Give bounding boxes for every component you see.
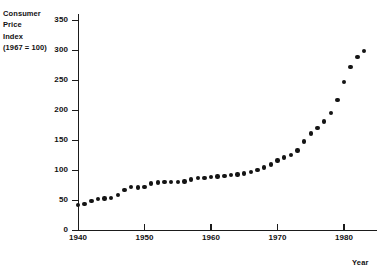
data-point [315, 126, 319, 130]
x-tick-label: 1940 [58, 233, 98, 242]
data-point [129, 185, 133, 189]
data-point [142, 185, 146, 189]
data-point [116, 193, 120, 197]
data-point [362, 49, 366, 53]
x-tick-label: 1980 [324, 233, 364, 242]
data-point [348, 65, 352, 69]
data-point [215, 174, 219, 178]
data-point [76, 203, 80, 207]
x-axis-line [78, 230, 377, 231]
data-point [289, 153, 293, 157]
x-tick-mark [210, 224, 211, 231]
x-tick-mark [144, 224, 145, 231]
data-point [102, 196, 106, 200]
y-tick-label: 350 [38, 15, 68, 24]
data-point [302, 139, 306, 143]
y-tick-label: 150 [38, 135, 68, 144]
data-point [295, 148, 299, 152]
data-point [255, 168, 259, 172]
y-axis-line [78, 14, 79, 231]
data-point [176, 180, 180, 184]
data-point [335, 98, 339, 102]
data-point [182, 179, 186, 183]
data-point [242, 171, 246, 175]
data-point [229, 173, 233, 177]
y-axis-title-line-3: Index [3, 31, 61, 42]
data-point [82, 202, 86, 206]
y-tick-mark [72, 80, 79, 81]
y-tick-mark [72, 20, 79, 21]
data-point [149, 181, 153, 185]
data-point [189, 177, 193, 181]
data-point [136, 185, 140, 189]
data-point [249, 170, 253, 174]
y-tick-mark [72, 230, 79, 231]
x-tick-label: 1950 [125, 233, 165, 242]
data-point [235, 172, 239, 176]
y-tick-label: 200 [38, 105, 68, 114]
x-tick-mark [277, 224, 278, 231]
data-point [329, 111, 333, 115]
y-tick-mark [72, 170, 79, 171]
data-point [355, 55, 359, 59]
data-point [156, 180, 160, 184]
y-tick-label: 50 [38, 195, 68, 204]
data-point [96, 197, 100, 201]
y-tick-mark [72, 50, 79, 51]
data-point [162, 180, 166, 184]
data-point [169, 180, 173, 184]
y-tick-mark [72, 110, 79, 111]
data-point [282, 155, 286, 159]
data-point [262, 165, 266, 169]
y-tick-label: 250 [38, 75, 68, 84]
y-tick-label: 100 [38, 165, 68, 174]
data-point [89, 199, 93, 203]
data-point [209, 175, 213, 179]
data-point [196, 176, 200, 180]
x-tick-label: 1970 [258, 233, 298, 242]
data-point [322, 119, 326, 123]
y-tick-label: 300 [38, 45, 68, 54]
data-point [222, 174, 226, 178]
y-tick-mark [72, 200, 79, 201]
data-point [342, 80, 346, 84]
data-point [109, 196, 113, 200]
y-tick-mark [72, 140, 79, 141]
data-point [202, 176, 206, 180]
x-tick-label: 1960 [191, 233, 231, 242]
x-tick-mark [343, 224, 344, 231]
data-point [122, 188, 126, 192]
data-point [309, 131, 313, 135]
data-point [269, 162, 273, 166]
x-axis-title: Year [352, 258, 369, 267]
data-point [275, 158, 279, 162]
cpi-scatter-chart: Consumer Price Index (1967 = 100) 050100… [0, 0, 390, 276]
